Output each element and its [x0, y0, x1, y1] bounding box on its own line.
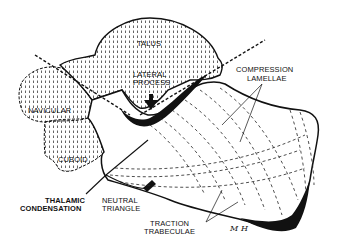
- label-traction-2: TRABECULAE: [144, 228, 195, 237]
- label-thalamic-2: CONDENSATION: [20, 205, 81, 214]
- label-neutral-2: TRIANGLE: [102, 205, 140, 214]
- label-cuboid: CUBOID: [58, 156, 88, 165]
- label-talus: TALUS: [137, 40, 161, 49]
- label-compression-2: LAMELLAE: [247, 75, 287, 84]
- artist-signature: M H: [230, 225, 248, 234]
- label-lateral-process-2: PROCESS: [133, 79, 170, 88]
- label-navicular: NAVICULAR: [28, 107, 71, 116]
